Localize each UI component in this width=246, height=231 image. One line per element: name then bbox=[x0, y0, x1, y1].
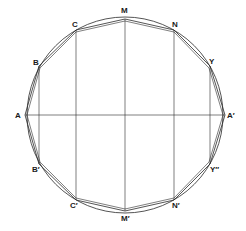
circle-polygon-diagram: M C N B Y A A′ B′ Y″ C′ N′ M′ bbox=[0, 0, 246, 231]
label-Y-double-prime: Y″ bbox=[210, 165, 219, 174]
label-C: C bbox=[72, 20, 78, 29]
label-B-prime: B′ bbox=[32, 165, 40, 174]
label-N: N bbox=[172, 20, 178, 29]
label-N-prime: N′ bbox=[172, 201, 180, 210]
label-A: A bbox=[15, 111, 21, 120]
label-C-prime: C′ bbox=[70, 201, 78, 210]
label-B: B bbox=[33, 58, 39, 67]
label-M: M bbox=[121, 6, 128, 15]
label-M-prime: M′ bbox=[121, 214, 130, 223]
label-Y: Y bbox=[209, 57, 215, 66]
label-A-prime: A′ bbox=[227, 111, 235, 120]
